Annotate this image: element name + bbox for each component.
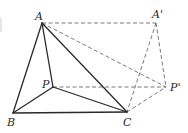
label-c: C: [123, 116, 132, 129]
vertex-labels: A B C P A' P': [6, 8, 180, 129]
label-p-prime: P': [169, 81, 180, 94]
segment-a-p2: [42, 23, 166, 87]
segment-a2-c: [127, 23, 156, 112]
label-a-prime: A': [151, 8, 163, 21]
segment-a-b: [13, 23, 42, 113]
segment-c-p2: [127, 87, 166, 112]
label-a: A: [34, 10, 43, 23]
label-b: B: [6, 116, 15, 129]
segment-a-c: [42, 23, 127, 112]
segment-b-c: [13, 112, 127, 113]
label-p: P: [41, 78, 50, 91]
segment-a2-p2: [156, 23, 166, 87]
scan-artifact: [0, 18, 2, 32]
geometry-diagram: A B C P A' P': [0, 0, 188, 133]
dashed-construction-lines: [42, 23, 166, 112]
triangle-solid-lines: [13, 23, 127, 113]
diagram-canvas: A B C P A' P': [0, 0, 188, 133]
